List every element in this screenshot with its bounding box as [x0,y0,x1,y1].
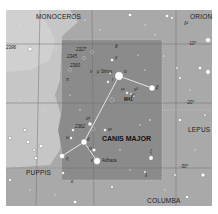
constellation-label-columba: COLUMBA [147,198,181,205]
greek-theta: θ [115,45,117,50]
greek-eta: η [66,157,69,162]
greek-sigma: σ [89,147,92,152]
greek-iota: ι [112,78,113,83]
declination-label-minus-30: -30° [180,165,188,170]
constellation-label-orion: ORION [190,14,212,21]
greek-nu3: ν³ [131,94,135,99]
greek-alpha: α [124,70,127,75]
greek-nu2: ν² [134,88,138,93]
ngc-label-2345: 2345 [67,55,77,60]
greek-gamma: γ [115,56,117,61]
greek-lambda: λ [145,174,147,179]
greek-omega: ω [66,136,70,141]
greek-beta: β [156,86,159,91]
greek-delta-orion: δ² [184,22,188,27]
greek-nu1: ν¹ [121,88,125,93]
constellation-label-canis-major: CANIS MAJOR [102,135,151,142]
constellation-label-monoceros: MONOCEROS [36,14,81,21]
constellation-label-puppis: PUPPIS [26,170,51,177]
ngc-label-2396: 2396 [6,46,16,51]
ngc-label-2362: 2362 [75,125,85,130]
star-label-sirius: Sirius [101,70,112,75]
ngc-label-2360: 2360 [70,64,80,69]
greek-kappa: κ [71,180,73,185]
constellation-label-lepus: LEPUS [188,127,210,134]
greek-zeta: ζ [150,150,152,155]
greek-mu: μ [97,70,99,75]
greek-epsilon: ε [91,159,93,164]
greek-o1: ο¹ [108,128,112,133]
object-label-m41: M41 [124,98,133,103]
star-chart [0,0,218,214]
ngc-label-2327: 2327 [76,48,86,53]
greek-nu: ν [90,70,92,75]
greek-delta: δ [87,138,90,143]
greek-pi: π [66,78,69,83]
greek-o2: ο² [86,117,90,122]
declination-label-minus-10: -10° [188,42,196,47]
star-label-adhara: Adhara [102,159,117,164]
declination-label-minus-20: -20° [186,101,194,106]
